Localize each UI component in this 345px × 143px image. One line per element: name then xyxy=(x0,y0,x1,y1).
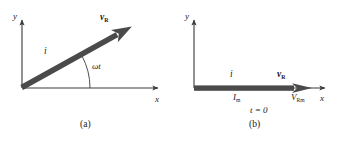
panel-a-x-axis-label: x xyxy=(155,95,159,104)
panel-b-voltage-amplitude-subscript: Rm xyxy=(297,97,305,103)
phasor-figure: y x i vR ωt (a) y x i xyxy=(0,0,345,143)
panel-b-current-label: i xyxy=(230,70,233,80)
phasor-shaft xyxy=(194,85,294,90)
panel-b-voltage-amplitude-symbol: V xyxy=(291,92,297,102)
panel-a-current-label: i xyxy=(44,47,47,57)
panel-a-angle-label: ωt xyxy=(92,62,101,71)
panel-b-x-axis-label: x xyxy=(320,94,324,103)
panel-a-voltage-subscript: R xyxy=(104,17,108,23)
panel-a-y-axis-label: y xyxy=(13,12,17,21)
panel-b-current-amplitude-subscript: m xyxy=(236,97,240,103)
panel-a-voltage-phasor-label: vR xyxy=(100,13,108,23)
panel-a: y x i vR ωt (a) xyxy=(0,0,172,143)
panel-b-y-axis-label: y xyxy=(185,12,189,21)
panel-a-caption: (a) xyxy=(80,120,91,130)
panel-b-caption: (b) xyxy=(249,120,260,130)
panel-b-current-amplitude-label: Im xyxy=(233,93,240,102)
phasor-vr xyxy=(18,20,135,93)
panel-b-voltage-amplitude-label: VRm xyxy=(291,93,305,102)
panel-b-voltage-subscript: R xyxy=(281,74,285,80)
panel-b-time-label: t = 0 xyxy=(250,106,268,115)
panel-b: y x i vR Im VRm t = 0 (b) xyxy=(172,0,345,143)
angle-arc xyxy=(82,56,90,88)
panel-b-voltage-phasor-label: vR xyxy=(277,70,285,80)
